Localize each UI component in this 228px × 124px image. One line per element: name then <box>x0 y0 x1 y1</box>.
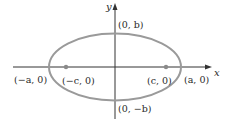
right-focus-label: (c, 0) <box>147 76 172 86</box>
x-axis-arrow-icon <box>205 65 212 70</box>
bottom-vertex-label: (0, −b) <box>118 104 152 114</box>
y-axis-label: y <box>106 2 112 12</box>
left-focus-label: (−c, 0) <box>62 76 95 86</box>
left-vertex-label: (−a, 0) <box>14 75 47 85</box>
left-focus-point <box>64 65 68 69</box>
right-vertex-label: (a, 0) <box>184 75 209 85</box>
ellipse-diagram <box>0 0 228 124</box>
x-axis-label: x <box>214 68 220 78</box>
y-axis-arrow-icon <box>113 3 118 10</box>
right-focus-point <box>164 65 168 69</box>
top-vertex-label: (0, b) <box>118 20 144 30</box>
